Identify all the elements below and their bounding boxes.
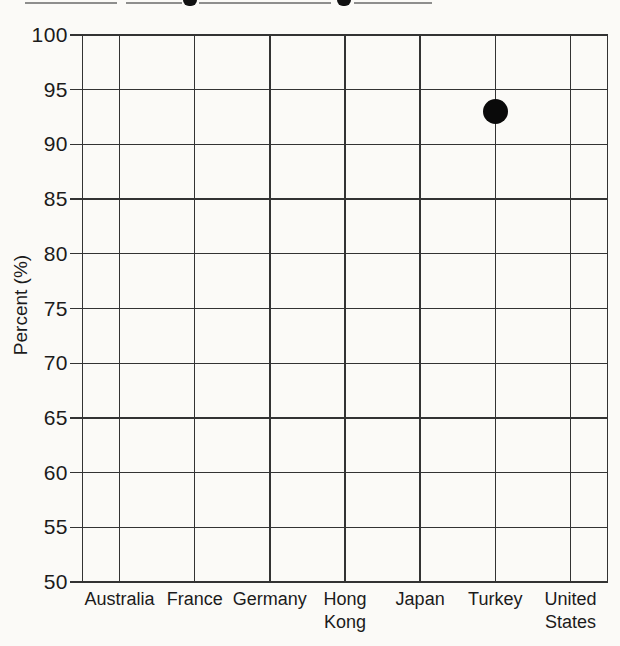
y-tick-label: 100 bbox=[16, 24, 68, 46]
cropped-text-remnant bbox=[0, 0, 620, 7]
h-gridline bbox=[70, 89, 608, 90]
x-category-label: Turkey bbox=[453, 588, 537, 611]
h-gridline bbox=[70, 417, 608, 418]
y-tick-label: 55 bbox=[16, 516, 68, 538]
h-gridline bbox=[70, 308, 608, 309]
plot-right-border bbox=[607, 35, 608, 582]
text-fragment bbox=[126, 2, 182, 4]
y-tick-label: 75 bbox=[16, 298, 68, 320]
v-gridline bbox=[570, 35, 571, 582]
y-tick-label: 50 bbox=[16, 571, 68, 593]
v-gridline bbox=[119, 35, 120, 582]
letter-descender-fragment bbox=[183, 0, 197, 6]
x-category-label: United States bbox=[528, 588, 612, 634]
text-fragment bbox=[25, 2, 117, 4]
x-category-label: Japan bbox=[378, 588, 462, 611]
h-gridline bbox=[70, 198, 608, 199]
h-gridline bbox=[70, 253, 608, 254]
y-tick-label: 95 bbox=[16, 79, 68, 101]
y-tick-label: 80 bbox=[16, 243, 68, 265]
v-gridline bbox=[344, 35, 345, 582]
text-fragment bbox=[199, 2, 331, 4]
v-gridline bbox=[269, 35, 270, 582]
y-tick-label: 90 bbox=[16, 133, 68, 155]
scatter-chart-figure: Percent (%) 10095908580757065605550Austr… bbox=[0, 0, 620, 646]
x-category-label: France bbox=[153, 588, 237, 611]
plot-area bbox=[82, 35, 608, 582]
h-gridline bbox=[70, 144, 608, 145]
y-tick-label: 85 bbox=[16, 188, 68, 210]
y-tick-label: 70 bbox=[16, 352, 68, 374]
y-tick-label: 60 bbox=[16, 462, 68, 484]
y-axis-line bbox=[82, 35, 83, 582]
h-gridline bbox=[70, 472, 608, 473]
h-gridline bbox=[70, 527, 608, 528]
letter-descender-fragment bbox=[337, 0, 351, 6]
x-category-label: Hong Kong bbox=[303, 588, 387, 634]
data-point-turkey bbox=[483, 99, 508, 124]
v-gridline bbox=[419, 35, 420, 582]
x-category-label: Australia bbox=[78, 588, 162, 611]
h-gridline bbox=[70, 363, 608, 364]
h-gridline bbox=[70, 581, 608, 582]
h-gridline bbox=[70, 34, 608, 35]
x-category-label: Germany bbox=[228, 588, 312, 611]
y-tick-label: 65 bbox=[16, 407, 68, 429]
v-gridline bbox=[194, 35, 195, 582]
text-fragment bbox=[354, 2, 432, 4]
